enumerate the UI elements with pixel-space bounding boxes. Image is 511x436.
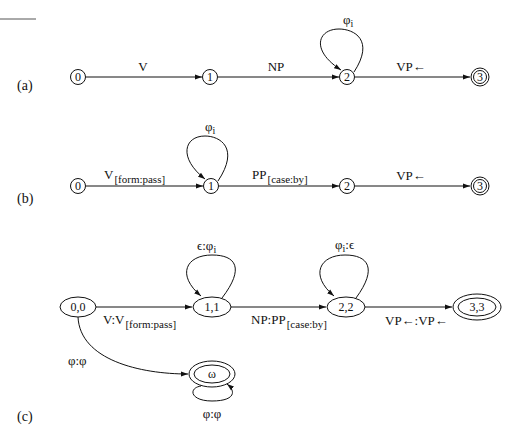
fsa-diagram: (a) 0 1 2 3 V NP φi [0, 0, 511, 436]
edge-a-0-1: V [86, 59, 202, 77]
panel-b: (b) 0 1 2 3 V[form:pass] φi PP[case [17, 119, 489, 207]
state-b-2: 2 [340, 179, 355, 194]
svg-text:VP←:VP←: VP←:VP← [385, 313, 448, 328]
svg-text:VP←: VP← [396, 168, 426, 183]
svg-text:V:V[form:pass]: V:V[form:pass] [103, 312, 176, 330]
edge-b-2-3: VP← [355, 168, 470, 186]
svg-text:VP←: VP← [396, 59, 426, 74]
svg-text:1,1: 1,1 [205, 300, 220, 314]
state-a-0: 0 [71, 70, 86, 85]
state-c-22: 2,2 [327, 297, 365, 317]
panel-a: (a) 0 1 2 3 V NP φi [17, 12, 489, 94]
edge-c-22-33: VP←:VP← [365, 307, 452, 328]
edge-c-11-loop: ϵ:φi [187, 238, 236, 298]
panel-label-a: (a) [17, 78, 33, 94]
svg-text:2: 2 [344, 179, 350, 193]
state-b-1: 1 [204, 179, 219, 194]
state-c-33-final: 3,3 [453, 294, 501, 320]
svg-text:3,3: 3,3 [470, 300, 485, 314]
edge-b-1-2: PP[case:by] [219, 167, 339, 186]
svg-text:NP: NP [268, 59, 285, 74]
svg-text:φi: φi [343, 12, 354, 29]
state-c-00: 0,0 [60, 297, 96, 317]
edge-b-0-1: V[form:pass] [86, 167, 203, 186]
edge-a-2-3: VP← [355, 59, 470, 77]
state-a-2: 2 [340, 70, 355, 85]
edge-b-1-loop: φi [187, 119, 228, 181]
state-a-1: 1 [203, 70, 218, 85]
svg-text:0: 0 [75, 70, 81, 84]
svg-text:1: 1 [207, 70, 213, 84]
state-a-3-final: 3 [471, 68, 489, 86]
state-b-3-final: 3 [471, 177, 489, 195]
svg-text:ϵ:φi: ϵ:φi [197, 238, 216, 255]
state-c-omega-final: ω [189, 361, 235, 387]
svg-text:2: 2 [344, 70, 350, 84]
panel-label-c: (c) [17, 409, 33, 425]
edge-c-omega-loop: φ:φ [193, 384, 233, 421]
state-b-0: 0 [71, 179, 86, 194]
svg-text:ω: ω [208, 367, 216, 381]
svg-text:2,2: 2,2 [339, 300, 354, 314]
edge-a-1-2: NP [218, 59, 339, 77]
svg-text:V[form:pass]: V[form:pass] [104, 167, 165, 185]
svg-text:V: V [138, 59, 148, 74]
edge-c-11-22: NP:PP[case:by] [231, 307, 327, 330]
edge-a-2-loop: φi [320, 12, 362, 72]
svg-text:1: 1 [208, 179, 214, 193]
panel-c: (c) 0,0 1,1 2,2 3,3 ω V:V[form:pass] [17, 237, 501, 425]
svg-text:0: 0 [75, 179, 81, 193]
edge-c-00-11: V:V[form:pass] [96, 307, 192, 330]
svg-text:φ:φ: φ:φ [68, 353, 87, 368]
svg-text:φi: φi [205, 119, 216, 136]
svg-text:NP:PP[case:by]: NP:PP[case:by] [251, 312, 327, 330]
svg-text:φi:ϵ: φi:ϵ [335, 237, 354, 254]
panel-label-b: (b) [17, 191, 34, 207]
svg-text:3: 3 [477, 70, 483, 84]
svg-text:3: 3 [477, 179, 483, 193]
svg-text:PP[case:by]: PP[case:by] [252, 167, 308, 185]
svg-text:φ:φ: φ:φ [203, 406, 222, 421]
edge-c-22-loop: φi:ϵ [320, 237, 368, 298]
state-c-11: 1,1 [193, 297, 231, 317]
svg-text:0,0: 0,0 [71, 300, 86, 314]
